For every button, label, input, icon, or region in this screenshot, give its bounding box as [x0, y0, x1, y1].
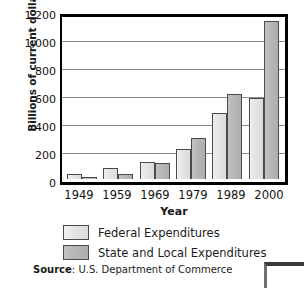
- source-text: U.S. Department of Commerce: [78, 264, 232, 275]
- y-tick-label-600: 600: [8, 94, 56, 105]
- x-tick-label-1959: 1959: [98, 188, 136, 202]
- bar-statelocal-1989: [227, 94, 242, 179]
- bar-federal-1979: [176, 149, 191, 179]
- legend-item-federal: Federal Expenditures: [63, 223, 303, 242]
- bar-group-2000: [249, 20, 279, 179]
- bar-statelocal-1969: [155, 163, 170, 179]
- x-tick-label-1969: 1969: [136, 188, 174, 202]
- y-tick-label-1200: 1,200: [8, 10, 56, 21]
- bar-federal-1959: [103, 168, 118, 179]
- bar-group-1989: [212, 20, 242, 179]
- legend-label-statelocal: State and Local Expenditures: [98, 246, 266, 260]
- source-prefix: Source: [33, 264, 72, 275]
- y-tick-label-0: 0: [8, 178, 56, 189]
- bar-statelocal-1979: [191, 138, 206, 179]
- x-tick-label-2000: 2000: [250, 188, 288, 202]
- page-corner-artifact: [264, 262, 304, 288]
- bar-federal-1969: [140, 162, 155, 179]
- bar-statelocal-2000: [264, 21, 279, 179]
- x-axis-title: Year: [60, 205, 288, 218]
- y-tick-label-200: 200: [8, 150, 56, 161]
- chart-legend: Federal Expenditures State and Local Exp…: [63, 223, 303, 263]
- y-tick-label-1000: 1,000: [8, 38, 56, 49]
- x-tick-label-1949: 1949: [60, 188, 98, 202]
- x-tick-label-1989: 1989: [212, 188, 250, 202]
- legend-item-statelocal: State and Local Expenditures: [63, 243, 303, 262]
- bar-federal-1949: [67, 174, 82, 179]
- x-tick-label-1979: 1979: [174, 188, 212, 202]
- source-note: Source: U.S. Department of Commerce: [33, 264, 232, 275]
- y-tick-label-800: 800: [8, 66, 56, 77]
- bar-federal-1989: [212, 113, 227, 179]
- bar-group-1969: [140, 20, 170, 179]
- legend-swatch-statelocal: [63, 245, 89, 260]
- bar-statelocal-1959: [118, 174, 133, 179]
- bar-group-1979: [176, 20, 206, 179]
- bar-statelocal-1949: [82, 177, 97, 179]
- bar-group-1959: [103, 20, 133, 179]
- legend-label-federal: Federal Expenditures: [98, 226, 220, 240]
- y-tick-label-400: 400: [8, 122, 56, 133]
- bar-group-1949: [67, 20, 97, 179]
- plot-area: [60, 14, 288, 185]
- bar-groups: [64, 20, 282, 179]
- legend-swatch-federal: [63, 225, 89, 240]
- bar-federal-2000: [249, 98, 264, 179]
- x-tick-labels: 1949 1959 1969 1979 1989 2000: [60, 188, 288, 202]
